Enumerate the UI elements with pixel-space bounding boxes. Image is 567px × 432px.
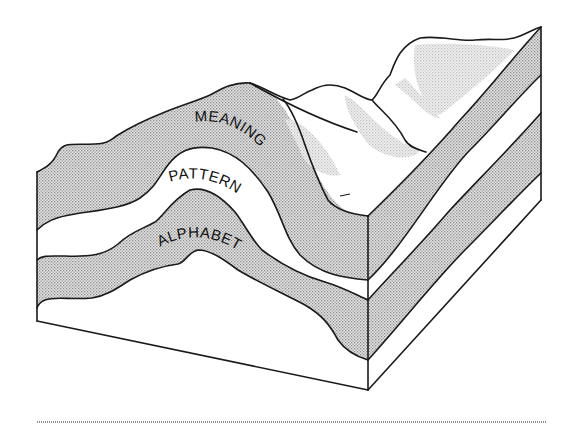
mountain-shade-mid: [345, 95, 420, 157]
mountain-scratch: [340, 194, 350, 196]
bottom-front-edge: [37, 321, 368, 390]
block-diagram: MEANING PATTERN ALPHABET: [0, 0, 567, 432]
